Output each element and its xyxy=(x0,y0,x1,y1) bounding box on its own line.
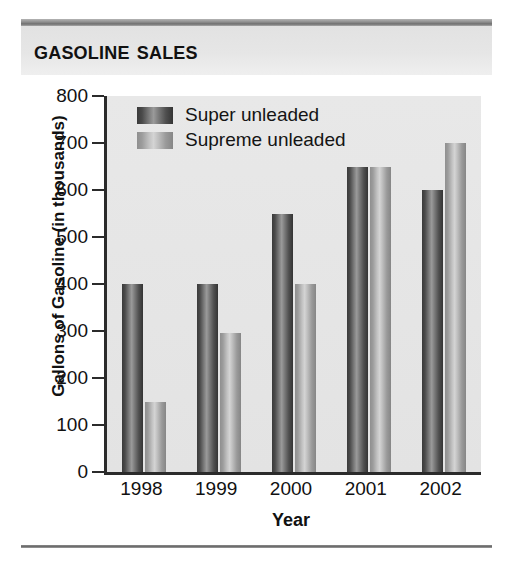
bar-2001-series-1 xyxy=(347,167,368,473)
bar-2000-series-1 xyxy=(272,214,293,473)
y-axis-tick-mark xyxy=(92,236,104,238)
x-axis-tick-label: 1998 xyxy=(111,478,171,500)
bar-2001-series-2 xyxy=(370,167,391,473)
legend-label: Super unleaded xyxy=(185,104,319,126)
y-axis-tick-mark xyxy=(92,283,104,285)
bar-2002-series-1 xyxy=(422,190,443,472)
x-axis-tick-label: 2000 xyxy=(261,478,321,500)
y-axis-tick-label: 400 xyxy=(56,273,88,295)
header-band: Gasoline Sales xyxy=(21,26,492,75)
bar-chart-figure: Gallons of Gasoline (in thousands) 01002… xyxy=(0,78,513,508)
legend-swatch-icon xyxy=(137,132,173,149)
y-axis-tick-mark xyxy=(92,95,104,97)
bar-1998-series-2 xyxy=(145,402,166,473)
legend-item-2: Supreme unleaded xyxy=(137,129,346,151)
y-axis-tick-label: 500 xyxy=(56,226,88,248)
footer-rule xyxy=(21,545,492,548)
chart-legend: Super unleadedSupreme unleaded xyxy=(137,104,346,151)
bar-2002-series-2 xyxy=(445,143,466,472)
bar-1999-series-1 xyxy=(197,284,218,472)
y-axis-tick-labels: 0100200300400500600700800 xyxy=(30,96,88,472)
y-axis-tick-mark xyxy=(92,330,104,332)
y-axis-tick-mark xyxy=(92,377,104,379)
y-axis-tick-label: 0 xyxy=(77,461,88,483)
y-axis-tick-label: 700 xyxy=(56,132,88,154)
bar-group-1998 xyxy=(122,96,166,472)
x-axis-tick-labels: 19981999200020012002 xyxy=(104,478,478,500)
y-axis-tick-marks xyxy=(92,96,104,472)
legend-swatch-icon xyxy=(137,107,173,124)
bar-group-2002 xyxy=(422,96,466,472)
y-axis-tick-label: 200 xyxy=(56,367,88,389)
y-axis-tick-mark xyxy=(92,142,104,144)
y-axis-tick-label: 100 xyxy=(56,414,88,436)
chart-header: Gasoline Sales xyxy=(21,19,492,75)
bar-group-1999 xyxy=(197,96,241,472)
page-title: Gasoline Sales xyxy=(21,36,198,65)
bar-1999-series-2 xyxy=(220,333,241,472)
header-top-rule xyxy=(21,19,492,26)
x-axis-tick-label: 1999 xyxy=(186,478,246,500)
bar-1998-series-1 xyxy=(122,284,143,472)
x-axis-tick-label: 2001 xyxy=(336,478,396,500)
y-axis-tick-label: 800 xyxy=(56,85,88,107)
y-axis-tick-label: 600 xyxy=(56,179,88,201)
bar-group-2001 xyxy=(347,96,391,472)
bars-layer xyxy=(107,96,481,472)
bar-group-2000 xyxy=(272,96,316,472)
plot-area: Super unleadedSupreme unleaded xyxy=(104,96,481,475)
y-axis-tick-label: 300 xyxy=(56,320,88,342)
bar-2000-series-2 xyxy=(295,284,316,472)
y-axis-tick-mark xyxy=(92,189,104,191)
x-axis-title: Year xyxy=(104,510,478,531)
y-axis-tick-mark xyxy=(92,471,104,473)
legend-item-1: Super unleaded xyxy=(137,104,346,126)
legend-label: Supreme unleaded xyxy=(185,129,346,151)
y-axis-tick-mark xyxy=(92,424,104,426)
x-axis-tick-label: 2002 xyxy=(411,478,471,500)
